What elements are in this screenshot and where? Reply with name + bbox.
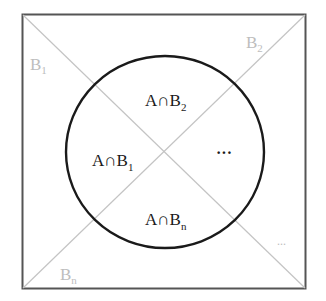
partition-diagram: B1 B2 Bn ... A∩B2 A∩B1 A∩Bn ···	[0, 0, 326, 301]
label-a-intersect-bn: A∩Bn	[145, 210, 187, 232]
label-intersection-ellipsis: ···	[216, 144, 232, 161]
label-partition-ellipsis: ...	[277, 234, 286, 248]
label-bn: Bn	[60, 265, 77, 286]
label-b2: B2	[246, 33, 263, 54]
label-a-intersect-b1: A∩B1	[92, 151, 133, 173]
label-a-intersect-b2: A∩B2	[145, 91, 186, 113]
label-b1: B1	[30, 55, 47, 76]
